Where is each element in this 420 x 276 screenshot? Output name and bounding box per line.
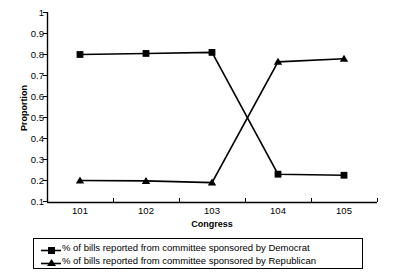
chart-figure: Proportion 1 0.9 0.8 0.7 0.6 0.5 0.4 0.3… (0, 0, 420, 276)
x-tick-label: 102 (126, 205, 166, 216)
legend-label: % of bills reported from committee spons… (62, 242, 310, 254)
triangle-marker-icon (40, 255, 62, 267)
square-marker-icon (40, 242, 62, 254)
x-tick-label: 105 (324, 205, 364, 216)
x-axis-tick-labels: 101 102 103 104 105 (0, 0, 420, 276)
legend-item-democrat: % of bills reported from committee spons… (40, 241, 362, 254)
x-tick-label: 101 (60, 205, 100, 216)
x-tick-label: 104 (258, 205, 298, 216)
chart-legend: % of bills reported from committee spons… (33, 238, 363, 269)
legend-item-republican: % of bills reported from committee spons… (40, 254, 362, 267)
x-tick-label: 103 (192, 205, 232, 216)
x-axis-title: Congress (47, 219, 377, 229)
legend-label: % of bills reported from committee spons… (62, 255, 316, 267)
